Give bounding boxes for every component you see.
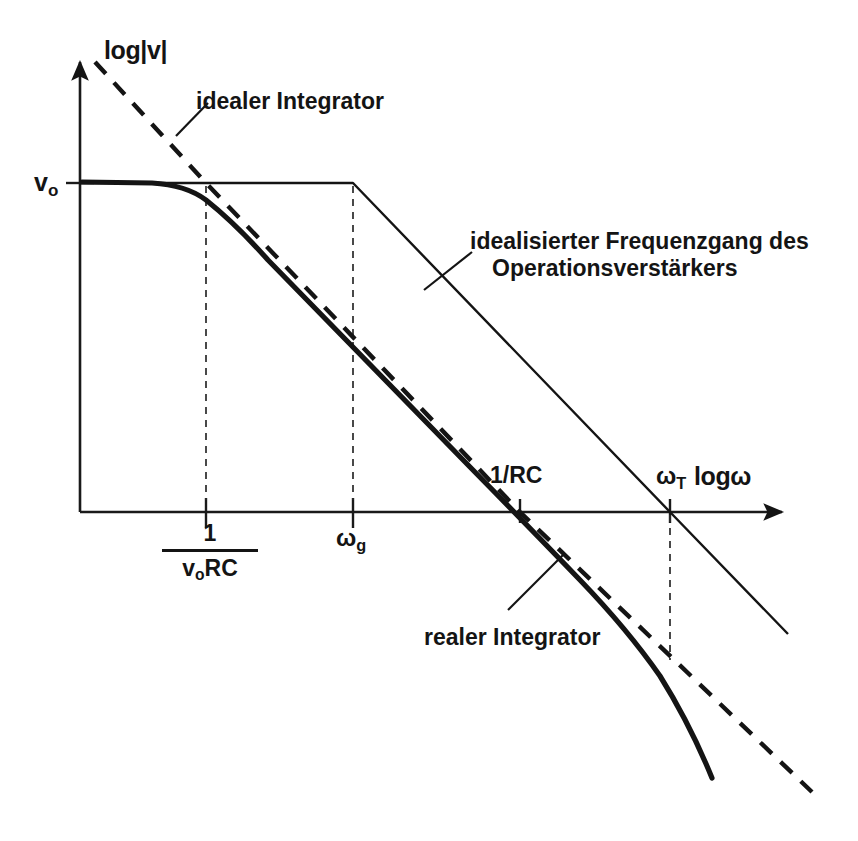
fraction-bar xyxy=(162,549,258,552)
fraction-den-suffix: RC xyxy=(205,555,238,581)
bode-diagram-figure: log|v| logω vo idealer Integrator ideali… xyxy=(0,0,858,841)
annotation-opamp-line2: Operationsverstärkers xyxy=(470,255,809,282)
annotation-opamp-line1: idealisierter Frequenzgang des xyxy=(470,228,809,254)
y-axis-label: log|v| xyxy=(104,36,167,66)
label-one-over-rc: 1/RC xyxy=(490,462,542,489)
omega-g-sub: g xyxy=(356,536,366,554)
fraction-denominator: voRC xyxy=(162,554,258,584)
y-level-base: v xyxy=(34,168,48,196)
annotation-realer-integrator: realer Integrator xyxy=(424,624,600,651)
omega-g-base: ω xyxy=(336,524,356,551)
tick-label-omega-g: ωg xyxy=(336,524,366,555)
leader-opamp-response xyxy=(424,252,472,290)
y-level-label-v0: vo xyxy=(34,168,58,201)
leader-realer-integrator xyxy=(508,554,564,610)
series-ideal-integrator xyxy=(95,62,812,792)
plot-svg xyxy=(0,0,858,841)
x-axis-label: logω xyxy=(694,462,751,492)
fraction-den-sub: o xyxy=(195,566,205,583)
fraction-numerator: 1 xyxy=(162,520,258,548)
label-omega-t: ωT xyxy=(656,462,686,493)
fraction-den-prefix: v xyxy=(182,555,195,581)
annotation-idealer-integrator: idealer Integrator xyxy=(196,88,384,115)
y-level-sub: o xyxy=(48,181,58,200)
tick-label-one-over-v0rc: 1 voRC xyxy=(162,520,258,584)
annotation-opamp-response: idealisierter Frequenzgang desOperations… xyxy=(470,228,809,282)
omega-t-base: ω xyxy=(656,462,676,489)
omega-t-sub: T xyxy=(676,474,686,492)
